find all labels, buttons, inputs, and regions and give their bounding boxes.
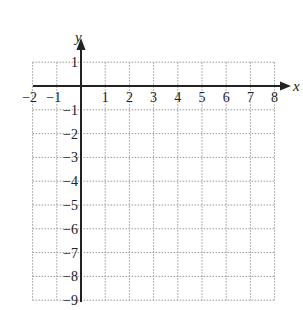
x-tick-label: 6 — [223, 90, 230, 105]
x-tick-label: 3 — [150, 90, 157, 105]
coordinate-plane: x y −2−112345678 1−1−2−3−4−5−6−7−8−9 — [0, 0, 303, 310]
y-tick-label: −5 — [63, 198, 78, 213]
y-tick-label: −1 — [63, 103, 78, 118]
x-axis-label: x — [292, 78, 300, 94]
y-tick-label: −7 — [63, 246, 78, 261]
x-tick-labels: −2−112345678 — [22, 90, 278, 105]
x-axis-arrow-icon — [280, 82, 291, 91]
y-tick-label: −4 — [63, 174, 78, 189]
x-tick-label: 5 — [199, 90, 206, 105]
y-tick-label: −3 — [63, 150, 78, 165]
x-tick-label: 8 — [271, 90, 278, 105]
y-axis-label: y — [73, 29, 82, 45]
x-tick-label: 7 — [247, 90, 254, 105]
x-tick-label: −2 — [22, 90, 37, 105]
y-tick-label: −9 — [63, 293, 78, 308]
x-tick-label: 2 — [126, 90, 133, 105]
y-tick-label: −8 — [63, 269, 78, 284]
y-tick-labels: 1−1−2−3−4−5−6−7−8−9 — [63, 55, 78, 308]
y-tick-label: 1 — [71, 55, 78, 70]
y-tick-label: −2 — [63, 127, 78, 142]
x-tick-label: 4 — [174, 90, 181, 105]
y-tick-label: −6 — [63, 222, 78, 237]
x-tick-label: 1 — [102, 90, 109, 105]
x-tick-label: −1 — [46, 90, 61, 105]
axes — [33, 38, 291, 302]
